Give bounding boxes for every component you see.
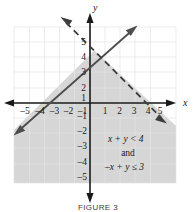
x-tick-3: 3	[132, 106, 137, 116]
x-tick-4: 4	[146, 106, 151, 116]
shaded-solution-region	[14, 51, 176, 184]
x-tick-neg-3: –3	[49, 106, 60, 116]
x-tick-neg-4: –4	[34, 106, 45, 116]
inequality-line-2: –x + y ≤ 3	[104, 162, 144, 172]
dashed-line-arrow-upper-left	[61, 17, 73, 26]
x-axis-label: x	[182, 97, 188, 108]
y-tick-neg-4: –4	[77, 157, 88, 167]
y-tick-5: 5	[81, 37, 86, 47]
coordinate-graph: x y –5 –4 –3 –2 –1 1 2 3 4 5 5 4 3 2 1 –…	[0, 0, 196, 212]
x-tick-5: 5	[158, 106, 163, 116]
x-tick-neg-5: –5	[19, 106, 30, 116]
y-tick-neg-5: –5	[77, 172, 88, 182]
y-axis-label: y	[92, 2, 98, 13]
figure-caption: FIGURE 3	[78, 203, 118, 212]
inequality-conjunction: and	[121, 148, 135, 158]
x-tick-neg-2: –2	[63, 106, 74, 116]
y-tick-neg-1: –1	[77, 111, 88, 121]
y-tick-2: 2	[81, 83, 86, 93]
inequality-line-1: x + y < 4	[107, 134, 144, 144]
y-axis-arrow-down	[86, 193, 93, 203]
y-axis-arrow-up	[86, 13, 93, 23]
x-tick-2: 2	[117, 106, 122, 116]
x-axis-arrow-left	[4, 99, 14, 106]
y-tick-neg-2: –2	[77, 126, 88, 136]
figure-container: x y –5 –4 –3 –2 –1 1 2 3 4 5 5 4 3 2 1 –…	[0, 0, 196, 212]
x-tick-1: 1	[103, 106, 108, 116]
y-tick-neg-3: –3	[77, 141, 88, 151]
y-tick-4: 4	[81, 52, 86, 62]
y-tick-3: 3	[81, 67, 86, 77]
y-tick-1: 1	[81, 93, 86, 103]
x-axis-arrow-right	[166, 99, 176, 106]
